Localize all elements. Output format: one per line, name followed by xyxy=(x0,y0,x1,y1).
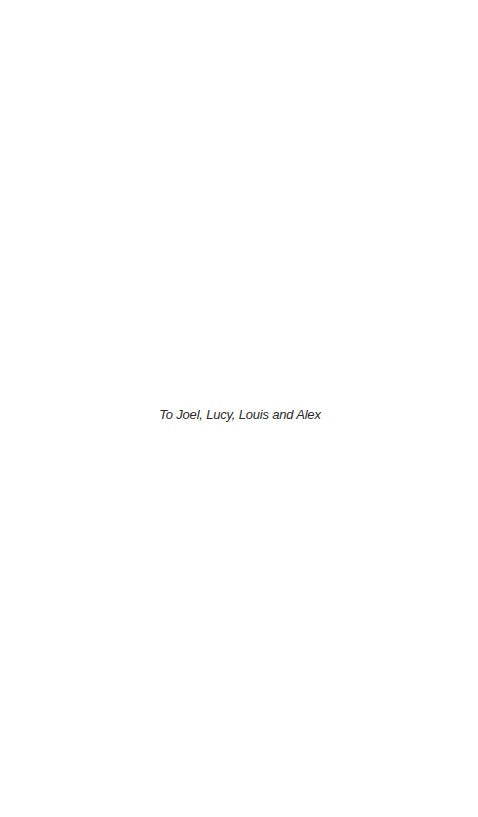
dedication-page: To Joel, Lucy, Louis and Alex xyxy=(0,0,478,817)
dedication-text: To Joel, Lucy, Louis and Alex xyxy=(0,407,478,422)
